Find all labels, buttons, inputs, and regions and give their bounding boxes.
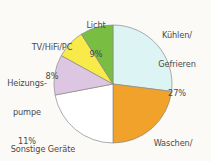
- pie-label-heizung-line2: pumpe: [1, 108, 53, 118]
- pie-label-licht-line1: Licht: [74, 21, 118, 31]
- pie-label-tv-hifi-pc: TV/HiFi/PC 8%: [22, 24, 82, 101]
- pie-value-kuehlen: 27%: [148, 89, 206, 99]
- pie-label-waschen-kochen-spuelen: Waschen/ Kochen/Spülen 23%: [136, 120, 210, 161]
- pie-label-kuehlen-line1: Kühlen/: [148, 31, 206, 41]
- pie-value-heizung: 11%: [1, 137, 53, 147]
- pie-label-tvhifi-line1: TV/HiFi/PC: [22, 43, 82, 53]
- pie-label-kuehlen-line2: Gefrieren: [148, 60, 206, 70]
- pie-label-licht: Licht 9%: [74, 2, 118, 79]
- pie-value-tvhifi: 8%: [22, 72, 82, 82]
- pie-chart: Kühlen/ Gefrieren 27% Waschen/ Kochen/Sp…: [0, 0, 211, 161]
- pie-value-licht: 9%: [74, 50, 118, 60]
- pie-label-kuehlen-gefrieren: Kühlen/ Gefrieren 27%: [148, 12, 206, 118]
- pie-label-waschen-line1: Waschen/: [136, 139, 210, 149]
